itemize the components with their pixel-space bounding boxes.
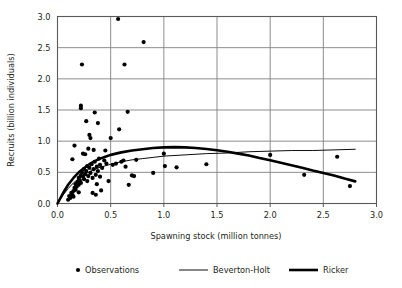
y-tick-label: 1.5 bbox=[37, 105, 50, 115]
data-point bbox=[90, 176, 94, 180]
chart-background bbox=[0, 0, 402, 288]
x-tick-label: 0.0 bbox=[51, 210, 64, 220]
y-tick-label: 0.5 bbox=[37, 167, 50, 177]
data-point bbox=[93, 160, 97, 164]
x-axis-title: Spawning stock (million tonnes) bbox=[150, 231, 281, 241]
data-point bbox=[335, 155, 339, 159]
y-tick-label: 2.0 bbox=[37, 74, 50, 84]
data-point bbox=[109, 136, 113, 140]
data-point bbox=[94, 173, 98, 177]
data-point bbox=[122, 62, 126, 66]
data-point bbox=[116, 17, 120, 21]
data-point bbox=[126, 110, 130, 114]
data-point bbox=[88, 136, 92, 140]
data-point bbox=[83, 152, 87, 156]
data-point bbox=[134, 158, 138, 162]
data-point bbox=[79, 181, 83, 185]
data-point bbox=[79, 104, 83, 108]
legend-label-ricker: Ricker bbox=[323, 265, 349, 275]
stock-recruitment-scatter-chart: 0.00.51.01.52.02.53.0 0.00.51.01.52.02.5… bbox=[0, 0, 402, 288]
data-point bbox=[88, 171, 92, 175]
data-point bbox=[106, 179, 110, 183]
y-axis-title: Recruits (billion individuals) bbox=[6, 53, 16, 166]
legend-label-beverton-holt: Beverton-Holt bbox=[213, 265, 271, 275]
y-tick-label: 0.0 bbox=[37, 199, 50, 209]
data-point bbox=[268, 153, 272, 157]
chart-figure: 0.00.51.01.52.02.53.0 0.00.51.01.52.02.5… bbox=[0, 0, 402, 288]
data-point bbox=[92, 148, 96, 152]
data-point bbox=[93, 110, 97, 114]
data-point bbox=[163, 164, 167, 168]
data-point bbox=[142, 40, 146, 44]
data-point bbox=[95, 182, 99, 186]
data-point bbox=[114, 162, 118, 166]
y-tick-label: 1.0 bbox=[37, 136, 50, 146]
data-point bbox=[174, 165, 178, 169]
x-tick-label: 2.0 bbox=[264, 210, 277, 220]
y-tick-label: 3.0 bbox=[37, 12, 50, 22]
x-tick-label: 3.0 bbox=[370, 210, 383, 220]
x-tick-label: 2.5 bbox=[317, 210, 330, 220]
data-point bbox=[98, 175, 102, 179]
data-point bbox=[86, 147, 90, 151]
data-point bbox=[100, 166, 104, 170]
data-point bbox=[348, 184, 352, 188]
data-point bbox=[96, 169, 100, 173]
data-point bbox=[71, 195, 75, 199]
data-point bbox=[85, 179, 89, 183]
data-point bbox=[84, 119, 88, 123]
data-point bbox=[77, 190, 81, 194]
data-point bbox=[94, 193, 98, 197]
legend-label-observations: Observations bbox=[85, 265, 139, 275]
data-point bbox=[127, 183, 131, 187]
data-point bbox=[121, 158, 125, 162]
data-point bbox=[162, 152, 166, 156]
data-point bbox=[103, 148, 107, 152]
data-point bbox=[104, 162, 108, 166]
data-point bbox=[96, 121, 100, 125]
data-point bbox=[151, 171, 155, 175]
data-point bbox=[132, 174, 136, 178]
data-point bbox=[99, 188, 103, 192]
data-point bbox=[123, 165, 127, 169]
data-point bbox=[87, 166, 91, 170]
legend-marker-dot bbox=[76, 268, 80, 272]
data-point bbox=[302, 173, 306, 177]
data-point bbox=[84, 169, 88, 173]
data-point bbox=[70, 157, 74, 161]
data-point bbox=[72, 143, 76, 147]
data-point bbox=[80, 62, 84, 66]
x-tick-label: 0.5 bbox=[104, 210, 117, 220]
y-tick-label: 2.5 bbox=[37, 43, 50, 53]
data-point bbox=[97, 157, 101, 161]
x-tick-label: 1.5 bbox=[210, 210, 223, 220]
x-tick-label: 1.0 bbox=[157, 210, 170, 220]
data-point bbox=[117, 127, 121, 131]
data-point bbox=[204, 162, 208, 166]
